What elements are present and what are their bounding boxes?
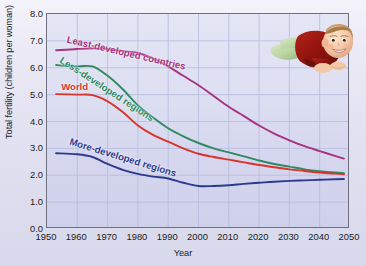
x-axis-title: Year bbox=[0, 248, 366, 258]
x-tick-2030: 2030 bbox=[278, 231, 299, 242]
y-tick-5.0: 5.0 bbox=[3, 88, 43, 99]
baby-photograph bbox=[268, 16, 354, 84]
fertility-chart-figure: Total fertility (children per woman) 0.0… bbox=[0, 0, 366, 266]
x-tick-1950: 1950 bbox=[36, 231, 57, 242]
x-tick-2000: 2000 bbox=[187, 231, 208, 242]
x-tick-2020: 2020 bbox=[248, 231, 269, 242]
y-tick-8.0: 8.0 bbox=[3, 8, 43, 19]
series-label-world: World bbox=[61, 80, 88, 91]
x-tick-2050: 2050 bbox=[339, 231, 360, 242]
x-tick-2010: 2010 bbox=[217, 231, 238, 242]
y-axis-tick-labels: 0.01.02.03.04.05.06.07.08.0 bbox=[0, 0, 43, 266]
x-tick-1990: 1990 bbox=[157, 231, 178, 242]
y-tick-3.0: 3.0 bbox=[3, 142, 43, 153]
y-tick-4.0: 4.0 bbox=[3, 115, 43, 126]
y-tick-7.0: 7.0 bbox=[3, 34, 43, 45]
x-tick-1970: 1970 bbox=[96, 231, 117, 242]
y-tick-1.0: 1.0 bbox=[3, 196, 43, 207]
y-tick-2.0: 2.0 bbox=[3, 169, 43, 180]
y-tick-6.0: 6.0 bbox=[3, 61, 43, 72]
x-tick-2040: 2040 bbox=[308, 231, 329, 242]
x-tick-1960: 1960 bbox=[66, 231, 87, 242]
x-tick-1980: 1980 bbox=[126, 231, 147, 242]
series-line-world bbox=[56, 94, 344, 174]
